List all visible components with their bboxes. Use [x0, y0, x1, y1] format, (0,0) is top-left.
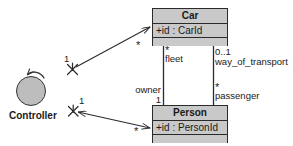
uml-class-person-attribute: +id : PersonId — [153, 121, 227, 135]
uml-class-person-name: Person — [153, 106, 227, 121]
controller-circle-icon — [16, 76, 46, 106]
multiplicity-controller-to-car-source: 1 — [64, 54, 69, 64]
multiplicity-controller-to-person-target: * — [134, 128, 138, 135]
multiplicity-controller-to-person-source: 1 — [79, 96, 84, 106]
role-fleet: fleet — [165, 54, 183, 64]
uml-class-person[interactable]: Person +id : PersonId — [152, 105, 228, 143]
uml-class-car-attribute: +id : CarId — [153, 24, 227, 38]
uml-diagram-canvas: Car +id : CarId Person +id : PersonId Co… — [0, 0, 293, 146]
role-passenger: passenger — [215, 91, 259, 101]
uml-class-person-operations-compartment — [153, 135, 227, 143]
uml-class-car[interactable]: Car +id : CarId — [152, 8, 228, 46]
multiplicity-owner: 1 — [122, 95, 161, 105]
uml-class-car-name: Car — [153, 9, 227, 24]
connector-layer — [0, 0, 293, 146]
role-way-of-transport: way_of_transport — [215, 57, 288, 67]
multiplicity-controller-to-car-target: * — [136, 42, 140, 49]
controller-label: Controller — [9, 110, 57, 121]
